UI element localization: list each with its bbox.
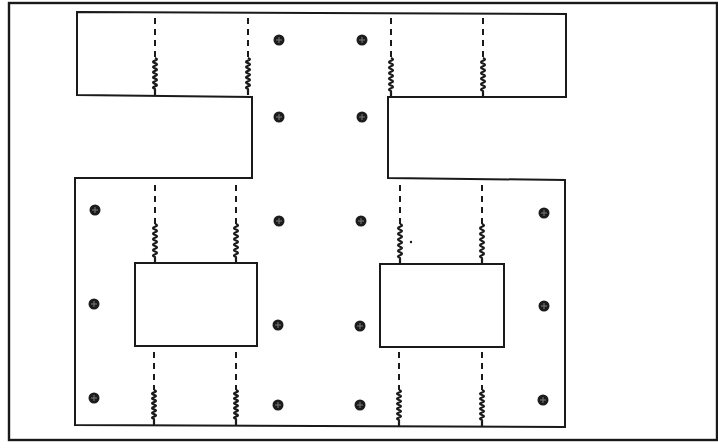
spring-icon xyxy=(152,352,156,425)
screw-icon xyxy=(538,395,549,406)
spring-icon xyxy=(480,185,484,264)
spring-icon xyxy=(153,18,157,95)
screw-icon xyxy=(89,393,100,404)
screw-icon xyxy=(274,216,285,227)
spring-icon xyxy=(389,18,393,97)
screw-icon xyxy=(274,112,285,123)
spring-icon xyxy=(481,18,485,97)
spring-group xyxy=(152,18,485,426)
screw-icon xyxy=(357,112,368,123)
spring-icon xyxy=(397,352,401,426)
stray-mark-group xyxy=(410,241,412,243)
screw-icon xyxy=(539,301,550,312)
spring-icon xyxy=(234,185,238,263)
right-window xyxy=(380,264,504,347)
spring-icon xyxy=(153,185,157,263)
spring-icon xyxy=(480,352,484,426)
spring-icon xyxy=(246,18,250,95)
screw-icon xyxy=(273,400,284,411)
left-window xyxy=(135,263,257,346)
screw-icon xyxy=(355,321,366,332)
spring-icon xyxy=(234,352,238,425)
screw-icon xyxy=(274,35,285,46)
screw-icon xyxy=(355,400,366,411)
layout-diagram xyxy=(0,0,718,448)
screw-icon xyxy=(539,208,550,219)
screw-icon xyxy=(90,205,101,216)
plate-outline-group xyxy=(75,12,566,427)
spring-icon xyxy=(398,185,402,264)
screw-icon xyxy=(356,216,367,227)
upper-plate-outline xyxy=(75,12,566,427)
screw-icon xyxy=(273,320,284,331)
stray-dot xyxy=(410,241,412,243)
window-cutout-group xyxy=(135,263,504,347)
screw-group xyxy=(89,35,550,411)
screw-icon xyxy=(89,299,100,310)
screw-icon xyxy=(357,35,368,46)
